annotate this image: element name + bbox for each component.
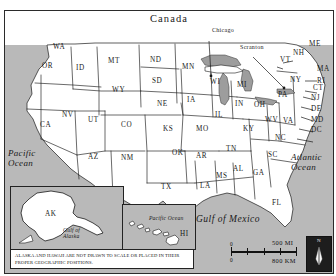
state-label-in: IN — [235, 101, 244, 108]
state-label-nd: ND — [150, 57, 162, 64]
state-label-id: ID — [76, 65, 85, 72]
hawaii-islands-shape — [123, 205, 195, 249]
state-label-md: MD — [311, 117, 324, 124]
gulf-of-alaska-label: Gulf ofAlaska — [63, 227, 80, 240]
state-label-ut: UT — [88, 117, 99, 124]
state-label-wa: WA — [53, 44, 65, 51]
state-label-ma: MA — [317, 66, 330, 73]
hawaii-inset: Pacific Ocean HI — [122, 204, 196, 250]
state-label-oh: OH — [254, 102, 266, 109]
state-label-ms: MS — [216, 173, 228, 180]
city-label-scranton: Scranton — [240, 44, 264, 50]
state-label-vt: VT — [280, 57, 291, 64]
us-reference-map: Canada Mexico PacificOcean AtlanticOcean… — [0, 0, 336, 276]
state-label-or: OR — [42, 63, 53, 70]
alaska-inset: AK Gulf ofAlaska — [10, 186, 124, 250]
state-label-ne: NE — [157, 101, 168, 108]
state-label-nv: NV — [62, 112, 74, 119]
ocean-label-pacific: PacificOcean — [8, 148, 36, 168]
state-label-ks: KS — [163, 126, 173, 133]
state-label-mt: MT — [108, 58, 120, 65]
scale-zero-miles: 0 — [230, 241, 233, 247]
compass-rose: N — [306, 236, 332, 272]
scale-tick-4 — [296, 247, 297, 256]
state-label-ca: CA — [40, 122, 51, 129]
state-label-nc: NC — [275, 135, 286, 142]
state-label-ok: OK — [172, 150, 184, 157]
hawaii-pacific-ocean-label: Pacific Ocean — [149, 215, 183, 221]
scale-tick-2 — [264, 248, 265, 255]
state-label-mn: MN — [182, 64, 195, 71]
scale-tick-0 — [231, 247, 232, 256]
state-label-sd: SD — [152, 78, 162, 85]
state-label-ny: NY — [290, 77, 302, 84]
scale-km-label: 800 KM — [272, 257, 296, 264]
country-label-canada: Canada — [150, 14, 188, 25]
scale-tick-3 — [280, 248, 281, 255]
ocean-label-atlantic: AtlanticOcean — [291, 152, 322, 172]
state-label-wv: WV — [265, 117, 278, 124]
state-label-wi: WI — [210, 79, 220, 86]
state-label-ga: GA — [253, 170, 265, 177]
state-label-wy: WY — [112, 87, 125, 94]
scale-bar: 0 0 500 MI 800 KM — [231, 240, 301, 266]
state-label-nj: NJ — [311, 95, 320, 102]
state-label-nm: NM — [121, 155, 134, 162]
state-label-pa: PA — [278, 92, 288, 99]
scale-miles-label: 500 MI — [272, 239, 293, 246]
state-label-ar: AR — [196, 153, 207, 160]
scale-tick-1 — [247, 248, 248, 255]
inset-caption: ALASKA AND HAWAII ARE NOT DRAWN TO SCALE… — [10, 249, 194, 269]
state-label-mi: MI — [237, 82, 247, 89]
state-label-ia: IA — [187, 97, 196, 104]
state-label-tn: TN — [226, 146, 237, 153]
state-label-la: LA — [200, 183, 211, 190]
ocean-label-gulf-of-mexico: Gulf of Mexico — [196, 215, 260, 225]
state-label-dc: DC — [311, 127, 322, 134]
state-label-mo: MO — [196, 126, 209, 133]
compass-needle-icon — [307, 245, 331, 271]
state-label-co: CO — [121, 122, 132, 129]
state-label-az: AZ — [88, 154, 99, 161]
state-label-ct: CT — [313, 85, 323, 92]
state-label-fl: FL — [272, 200, 282, 207]
state-label-il: IL — [215, 112, 223, 119]
scale-zero-km: 0 — [230, 257, 233, 263]
state-label-de: DE — [311, 106, 322, 113]
state-label-tx: TX — [161, 184, 172, 191]
hawaii-label: HI — [180, 231, 189, 238]
compass-north-label: N — [307, 238, 331, 243]
state-label-sc: SC — [268, 152, 278, 159]
state-label-me: ME — [309, 41, 321, 48]
state-label-va: VA — [283, 118, 294, 125]
state-label-ky: KY — [243, 126, 255, 133]
city-label-chicago: Chicago — [212, 27, 234, 33]
state-label-nh: NH — [293, 50, 305, 57]
alaska-label: AK — [45, 211, 57, 218]
state-label-al: AL — [233, 166, 244, 173]
